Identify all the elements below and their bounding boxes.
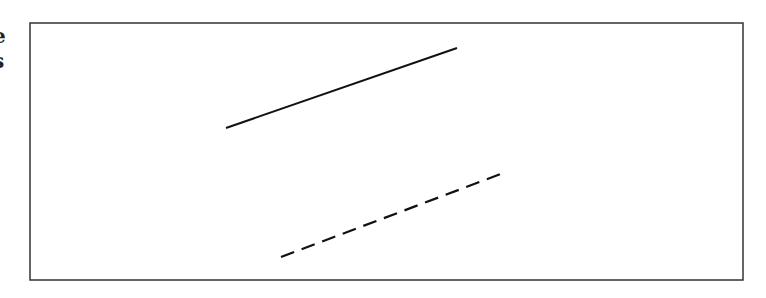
dashed-line xyxy=(281,172,506,257)
diagram-canvas xyxy=(0,0,766,298)
frame-border xyxy=(30,23,743,280)
solid-line xyxy=(226,48,457,128)
